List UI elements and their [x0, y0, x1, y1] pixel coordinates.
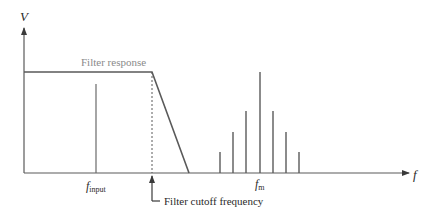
filter-response-curve — [24, 72, 189, 173]
diagram-canvas: V f Filter response Filter cutoff freque… — [0, 0, 423, 216]
modulated-signal-label: fm — [255, 177, 265, 192]
y-axis-label: V — [20, 9, 30, 24]
cutoff-label: Filter cutoff frequency — [164, 195, 264, 207]
cutoff-pointer — [152, 176, 160, 201]
filter-response-label: Filter response — [81, 56, 146, 68]
input-signal-label: finput — [86, 179, 107, 194]
x-axis-label: f — [413, 167, 419, 182]
modulated-spectrum — [220, 72, 299, 173]
